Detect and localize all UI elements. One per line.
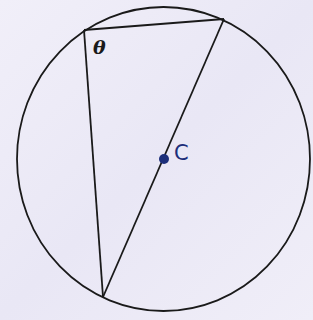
angle-label-theta: θ xyxy=(93,36,106,58)
circle-diagram: θ C xyxy=(0,0,313,320)
chord-left xyxy=(84,30,103,297)
chord-top xyxy=(84,19,224,30)
center-point xyxy=(159,154,169,164)
center-label-c: C xyxy=(174,141,189,165)
diagram-canvas: θ C xyxy=(0,0,313,320)
